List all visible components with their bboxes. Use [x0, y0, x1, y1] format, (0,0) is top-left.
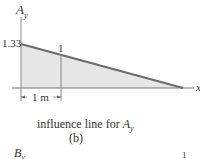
next-diagram-label: By — [14, 146, 25, 159]
value-at-origin: 1.33 — [2, 37, 21, 49]
influence-line-diagram — [0, 0, 200, 159]
subfigure-label: (b) — [69, 131, 83, 146]
y-axis-label-main: A — [16, 2, 24, 17]
caption-text: influence line for — [37, 117, 123, 131]
dimension-arrow-right — [57, 96, 61, 99]
y-axis-label: Ay — [16, 2, 28, 20]
caption-var: A — [123, 117, 130, 131]
dimension-arrow-left — [21, 96, 25, 99]
x-axis-label: x — [196, 81, 200, 93]
value-at-1m: 1 — [58, 42, 64, 54]
next-label-sub: y — [21, 153, 25, 159]
caption-var-sub: y — [130, 124, 134, 133]
next-diagram-value: 1 — [182, 150, 187, 159]
dimension-label: 1 m — [32, 91, 49, 103]
y-axis-label-sub: y — [24, 11, 28, 20]
caption: influence line for Ay — [37, 117, 134, 133]
